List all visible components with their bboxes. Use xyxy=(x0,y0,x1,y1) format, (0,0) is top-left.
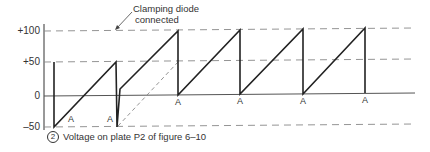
gridline-plus-100 xyxy=(44,28,415,31)
annotation-arrow-line xyxy=(117,12,132,28)
unclamped-dashed-path xyxy=(118,62,178,126)
point-label-a-1: A xyxy=(68,115,74,124)
tick-zero: 0 xyxy=(0,91,40,101)
waveform-diagram xyxy=(0,0,430,152)
gridline-plus-50 xyxy=(44,59,415,62)
caption-number-circle: 2 xyxy=(47,131,59,143)
tick-plus-50: +50 xyxy=(0,57,40,67)
zero-axis xyxy=(44,93,415,96)
annotation-text: Clamping diode connected xyxy=(133,3,199,25)
annotation-line-2: connected xyxy=(133,14,199,25)
figure-caption: 2Voltage on plate P2 of figure 6–10 xyxy=(47,131,206,143)
tick-minus-50: –50 xyxy=(0,122,40,132)
point-label-a-3: A xyxy=(175,98,181,107)
caption-text: Voltage on plate P2 of figure 6–10 xyxy=(63,131,206,142)
annotation-line-1: Clamping diode xyxy=(133,3,199,14)
point-label-a-6: A xyxy=(362,96,368,105)
point-label-a-5: A xyxy=(300,97,306,106)
gridline-minus-50 xyxy=(44,124,415,127)
point-label-a-4: A xyxy=(237,97,243,106)
point-label-a-2: A xyxy=(107,115,113,124)
plate-voltage-waveform xyxy=(54,28,365,127)
tick-plus-100: +100 xyxy=(0,26,40,36)
